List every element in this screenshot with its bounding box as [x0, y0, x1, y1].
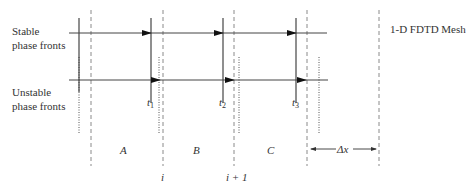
delta-x-label: Δx [337, 143, 348, 155]
mesh-title: 1-D FDTD Mesh [390, 23, 466, 35]
cell-label-a: A [120, 144, 127, 156]
time-label-t2: t2 [219, 96, 226, 112]
cell-label-c: C [267, 144, 274, 156]
stable-front-lines [79, 18, 296, 103]
node-label-i-plus-1: i + 1 [226, 171, 247, 183]
unstable-label-line1: Unstable [12, 86, 51, 98]
cell-label-b: B [193, 144, 200, 156]
unstable-label-line2: phase fronts [12, 100, 65, 112]
time-label-t1: t1 [147, 96, 154, 112]
unstable-front-lines [79, 57, 319, 134]
stable-label-line2: phase fronts [12, 39, 65, 51]
time-label-t3: t3 [292, 96, 299, 112]
stable-label-line1: Stable [12, 25, 40, 37]
node-label-i: i [161, 171, 164, 183]
